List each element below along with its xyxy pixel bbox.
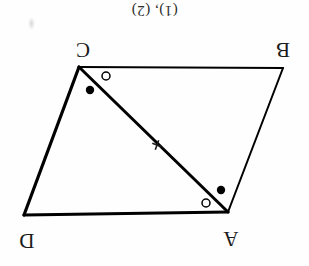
vertex-label-a: A (220, 225, 242, 249)
angle-mark-c-filled-icon (86, 86, 94, 94)
side-dc-line (24, 67, 79, 215)
vertex-label-d: D (16, 227, 38, 251)
parallelogram-diagram (0, 0, 309, 266)
vertex-label-b: B (272, 36, 294, 60)
vertex-label-c: C (72, 36, 94, 60)
side-ba-line (228, 68, 283, 212)
side-cb-line (79, 67, 283, 68)
angle-mark-c-hollow-icon (102, 72, 110, 80)
geometry-figure: (1), (2) C B A D (0, 0, 309, 266)
diagonal-ca-line (79, 67, 228, 212)
angle-mark-a-filled-icon (217, 186, 225, 194)
angle-mark-a-hollow-icon (202, 199, 210, 207)
side-ad-line (24, 212, 228, 215)
